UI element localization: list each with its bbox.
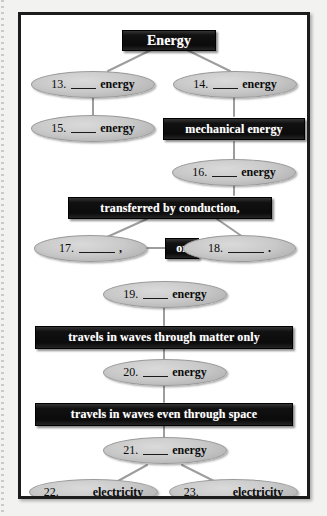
scan-edge-artifact: [1, 0, 4, 516]
node-23-number: 23.: [184, 485, 199, 499]
node-15-blank[interactable]: [71, 132, 96, 133]
node-15-number: 15.: [51, 121, 66, 135]
node-22-number: 22.: [44, 485, 59, 499]
node-travels-waves-even-through-space[interactable]: travels in waves even through space: [35, 403, 293, 426]
node-16-number: 16.: [192, 165, 207, 179]
node-19[interactable]: 19. energy: [103, 281, 227, 308]
node-energy-root[interactable]: Energy: [122, 30, 216, 51]
node-15-word: energy: [100, 121, 135, 135]
node-14-word: energy: [242, 77, 277, 91]
node-17[interactable]: 17. ,: [34, 235, 147, 262]
node-13-blank[interactable]: [71, 88, 96, 89]
node-22[interactable]: 22. electricity: [29, 479, 158, 499]
node-17-blank[interactable]: [79, 252, 115, 253]
node-14-blank[interactable]: [213, 88, 238, 89]
node-20[interactable]: 20. energy: [103, 359, 227, 386]
node-22-word: electricity: [93, 485, 144, 499]
node-16-blank[interactable]: [212, 176, 237, 177]
node-17-word: ,: [119, 241, 122, 255]
node-travels-waves-matter-only[interactable]: travels in waves through matter only: [35, 326, 293, 349]
node-16-word: energy: [241, 165, 276, 179]
node-23-blank[interactable]: [204, 496, 229, 497]
node-13-word: energy: [100, 77, 135, 91]
node-19-word: energy: [172, 287, 207, 301]
node-energy-root-label: Energy: [147, 33, 191, 49]
node-15[interactable]: 15. energy: [31, 115, 155, 142]
concept-map-canvas: Energy 13. energy 14. energy: [21, 15, 307, 496]
node-mechanical-energy-label: mechanical energy: [185, 122, 282, 137]
node-21[interactable]: 21. energy: [103, 437, 227, 464]
diagram-frame: Energy 13. energy 14. energy: [18, 12, 310, 499]
node-16[interactable]: 16. energy: [172, 159, 296, 186]
node-21-number: 21.: [123, 443, 138, 457]
node-18-number: 18.: [208, 241, 223, 255]
scanned-page: Energy 13. energy 14. energy: [0, 0, 327, 516]
node-20-blank[interactable]: [143, 376, 168, 377]
node-22-blank[interactable]: [64, 496, 89, 497]
node-transferred-by-conduction-label: transferred by conduction,: [100, 201, 239, 216]
node-20-number: 20.: [123, 365, 138, 379]
node-travels-waves-even-through-space-label: travels in waves even through space: [71, 407, 257, 422]
node-14[interactable]: 14. energy: [173, 71, 297, 98]
node-19-blank[interactable]: [143, 298, 168, 299]
node-21-word: energy: [172, 443, 207, 457]
node-18-word: .: [268, 241, 271, 255]
node-18-blank[interactable]: [228, 252, 264, 253]
node-19-number: 19.: [123, 287, 138, 301]
node-transferred-by-conduction[interactable]: transferred by conduction,: [68, 197, 272, 219]
node-17-number: 17.: [59, 241, 74, 255]
node-mechanical-energy[interactable]: mechanical energy: [163, 118, 305, 140]
node-18[interactable]: 18. .: [183, 235, 296, 262]
node-13[interactable]: 13. energy: [31, 71, 155, 98]
node-21-blank[interactable]: [143, 454, 168, 455]
node-13-number: 13.: [51, 77, 66, 91]
node-travels-waves-matter-only-label: travels in waves through matter only: [68, 330, 259, 345]
node-23-word: electricity: [233, 485, 284, 499]
node-20-word: energy: [172, 365, 207, 379]
node-23[interactable]: 23. electricity: [169, 479, 298, 499]
node-14-number: 14.: [193, 77, 208, 91]
